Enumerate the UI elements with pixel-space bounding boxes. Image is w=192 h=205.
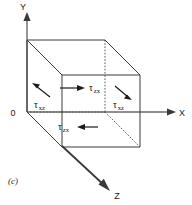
- tau-xz-right-symbol: τ: [113, 100, 117, 110]
- tau-zx-bottom-subscript: zx: [63, 126, 70, 133]
- x-axis-arrowhead: [167, 108, 176, 115]
- x-axis-label: X: [179, 108, 185, 118]
- tau-zx-top-arrowhead: [77, 85, 85, 91]
- tau-zx-top-symbol: τ: [89, 83, 93, 93]
- y-axis-label: Y: [20, 2, 26, 12]
- tau-xz-left-arrow: [32, 83, 50, 97]
- origin-label: 0: [10, 108, 15, 118]
- tau-zx-top-arrow: [60, 85, 85, 91]
- hidden-edge-diagonal-back: [105, 112, 140, 147]
- axis-group-z: [62, 146, 110, 191]
- tau-xz-left-label: τxz: [34, 100, 45, 111]
- figure-caption: (c): [8, 176, 18, 186]
- tau-zx-top-label: τzx: [89, 83, 101, 94]
- tau-xz-right-subscript: xz: [118, 104, 124, 111]
- tau-zx-bottom-symbol: τ: [58, 122, 62, 132]
- z-axis-line: [62, 146, 105, 186]
- tau-xz-right-arrow-shaft: [115, 86, 128, 97]
- z-axis-label: Z: [114, 191, 120, 201]
- edge-diagonal-top-left: [27, 40, 62, 75]
- edge-diagonal-top-right: [105, 40, 140, 75]
- tau-xz-right-label: τxz: [113, 100, 124, 111]
- tau-zx-bottom-arrow: [77, 124, 98, 130]
- tau-xz-left-arrow-shaft: [36, 86, 50, 97]
- tau-xz-right-arrow: [115, 86, 132, 100]
- tau-zx-bottom-label: τzx: [58, 122, 70, 133]
- edge-diagonal-bottom-left: [27, 112, 62, 147]
- y-axis-arrowhead: [23, 12, 30, 21]
- figure-container: Y X Z 0 τzx τxz τxz: [0, 0, 192, 205]
- shear-stress-cube-diagram: Y X Z 0 τzx τxz τxz: [0, 0, 192, 205]
- tau-zx-top-subscript: zx: [94, 87, 101, 94]
- tau-xz-left-subscript: xz: [39, 104, 45, 111]
- tau-zx-bottom-arrowhead: [77, 124, 85, 130]
- tau-xz-left-symbol: τ: [34, 100, 38, 110]
